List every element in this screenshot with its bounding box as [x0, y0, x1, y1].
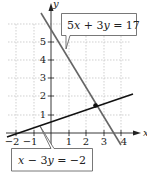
y-axis [49, 3, 54, 150]
graph: −2 −1 1 2 3 4 1 2 3 4 5 x y 5x + 3y = 17… [0, 0, 147, 173]
y-tick-label: 2 [40, 90, 46, 101]
y-axis-label: y [52, 0, 59, 9]
x-tick-label: 2 [83, 136, 89, 147]
callout-eq1: 5x + 3y = 17 [62, 14, 140, 50]
y-tick-label: 1 [40, 109, 46, 120]
line-x-minus-3y-eq-neg2 [7, 94, 133, 137]
y-tick-label: 4 [40, 54, 46, 65]
y-tick-label: 3 [40, 72, 46, 83]
eq1-label: 5x + 3y = 17 [67, 19, 140, 32]
x-axis-arrow-icon [133, 131, 141, 136]
x-tick-label: 4 [121, 136, 127, 147]
tick-marks [16, 42, 121, 136]
y-tick-label: 5 [40, 36, 46, 47]
intersection-point [93, 103, 98, 108]
x-tick-label: 3 [101, 136, 107, 147]
x-tick-label: −2 [5, 136, 20, 147]
x-axis-label: x [143, 127, 147, 138]
grid [8, 24, 130, 143]
x-tick-label: 1 [66, 136, 72, 147]
eq2-label: x − 3y = −2 [18, 154, 86, 167]
x-tick-label: −1 [23, 136, 38, 147]
